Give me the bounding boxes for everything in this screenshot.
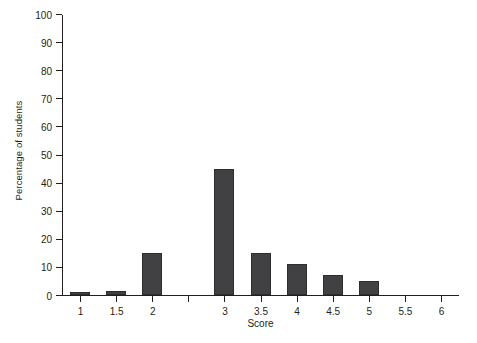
x-axis-tick-label: 4	[294, 306, 300, 317]
bar	[359, 281, 379, 295]
y-axis-tick: 100	[56, 14, 62, 15]
x-axis-tick: 1.5	[116, 296, 117, 302]
x-axis-tick-label: 4.5	[326, 306, 340, 317]
y-axis-tick-label: 70	[41, 93, 52, 104]
y-axis-tick: 50	[56, 155, 62, 156]
x-axis-tick	[188, 296, 189, 302]
y-axis-tick: 30	[56, 211, 62, 212]
y-axis-tick-label: 60	[41, 121, 52, 132]
bar	[214, 169, 234, 295]
y-axis-tick: 40	[56, 183, 62, 184]
y-axis-tick: 0	[56, 295, 62, 296]
x-axis-tick: 5.5	[405, 296, 406, 302]
bar	[142, 253, 162, 295]
bar	[106, 291, 126, 295]
x-axis-tick: 4.5	[333, 296, 334, 302]
x-axis-tick: 4	[297, 296, 298, 302]
x-axis-title: Score	[62, 318, 459, 329]
y-axis-tick: 80	[56, 70, 62, 71]
x-axis-tick-label: 1	[78, 306, 84, 317]
bar	[70, 292, 90, 295]
y-axis-tick-label: 30	[41, 206, 52, 217]
x-axis-tick-label: 2	[150, 306, 156, 317]
y-axis-tick-label: 20	[41, 234, 52, 245]
y-axis-tick-label: 10	[41, 262, 52, 273]
y-axis-spine	[62, 15, 63, 296]
y-axis-tick-label: 90	[41, 37, 52, 48]
y-axis-tick: 90	[56, 42, 62, 43]
x-axis-tick-label: 5.5	[398, 306, 412, 317]
x-axis-title-text: Score	[247, 318, 273, 329]
y-axis-title: Percentage of students	[8, 0, 30, 300]
x-axis-tick-label: 3	[222, 306, 228, 317]
y-axis-tick-label: 80	[41, 65, 52, 76]
y-axis-tick-label: 0	[46, 290, 52, 301]
bar	[251, 253, 271, 295]
x-axis-tick: 6	[441, 296, 442, 302]
x-axis-tick: 3.5	[261, 296, 262, 302]
x-axis-tick: 1	[80, 296, 81, 302]
y-axis-tick-label: 50	[41, 150, 52, 161]
x-axis-tick-label: 1.5	[110, 306, 124, 317]
bar	[287, 264, 307, 295]
y-axis-tick: 70	[56, 98, 62, 99]
y-axis-tick: 20	[56, 239, 62, 240]
x-axis-tick-label: 3.5	[254, 306, 268, 317]
x-axis-tick: 2	[152, 296, 153, 302]
y-axis-tick-label: 40	[41, 178, 52, 189]
y-axis-title-text: Percentage of students	[14, 100, 25, 200]
x-axis-tick-label: 5	[366, 306, 372, 317]
bar-chart-figure: Percentage of students 01020304050607080…	[0, 0, 477, 343]
plot-area: 0102030405060708090100 11.5233.544.555.5…	[62, 15, 459, 296]
x-axis-tick-label: 6	[439, 306, 445, 317]
x-axis-tick: 5	[369, 296, 370, 302]
y-axis-tick: 10	[56, 267, 62, 268]
bar	[323, 275, 343, 295]
y-axis-tick-label: 100	[35, 9, 52, 20]
y-axis-tick: 60	[56, 126, 62, 127]
x-axis-tick: 3	[224, 296, 225, 302]
